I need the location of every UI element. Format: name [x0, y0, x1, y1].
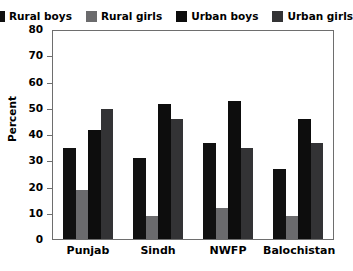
y-axis-tick-label: 10 [28, 207, 43, 219]
y-axis-title: Percent [6, 89, 18, 149]
bar[interactable] [203, 143, 216, 239]
y-axis-tick-label: 40 [28, 128, 43, 140]
x-axis-label: Balochistan [263, 244, 333, 257]
y-axis-tick-label: 50 [28, 102, 43, 114]
bar[interactable] [76, 190, 89, 239]
bar[interactable] [228, 101, 241, 239]
bar[interactable] [286, 216, 299, 239]
legend-label: Urban boys [191, 11, 258, 22]
bar[interactable] [158, 104, 171, 239]
bars-layer [53, 31, 333, 239]
y-axis-tick-label: 0 [36, 233, 43, 245]
legend-item[interactable]: Urban boys [176, 11, 258, 22]
x-axis-label: Sindh [123, 244, 193, 257]
legend-swatch-icon [272, 11, 283, 22]
y-axis-tick-label: 70 [28, 49, 43, 61]
bar[interactable] [133, 158, 146, 239]
bar[interactable] [63, 148, 76, 239]
bar[interactable] [273, 169, 286, 239]
legend-label: Urban girls [287, 11, 353, 22]
bar[interactable] [241, 148, 254, 239]
x-axis-label: NWFP [193, 244, 263, 257]
bar[interactable] [171, 119, 184, 239]
legend-item[interactable]: Rural girls [86, 11, 162, 22]
bar[interactable] [311, 143, 324, 239]
y-axis-tick-label: 60 [28, 76, 43, 88]
legend-swatch-icon [86, 11, 97, 22]
legend-swatch-icon [0, 11, 5, 22]
bar[interactable] [88, 130, 101, 239]
legend-label: Rural boys [9, 11, 72, 22]
bar-group [123, 31, 193, 239]
legend-label: Rural girls [101, 11, 162, 22]
y-axis-tick-label: 20 [28, 181, 43, 193]
legend-swatch-icon [176, 11, 187, 22]
bar[interactable] [101, 109, 114, 239]
legend-item[interactable]: Urban girls [272, 11, 353, 22]
bar-group [263, 31, 333, 239]
chart-legend: Rural boysRural girlsUrban boysUrban gir… [0, 6, 347, 26]
x-axis-label: Punjab [53, 244, 123, 257]
legend-item[interactable]: Rural boys [0, 11, 72, 22]
bar[interactable] [146, 216, 159, 239]
bar[interactable] [216, 208, 229, 239]
bar[interactable] [298, 119, 311, 239]
bar-group [53, 31, 123, 239]
y-axis-tick-label: 30 [28, 154, 43, 166]
y-axis-tick-label: 80 [28, 23, 43, 35]
bar-group [193, 31, 263, 239]
